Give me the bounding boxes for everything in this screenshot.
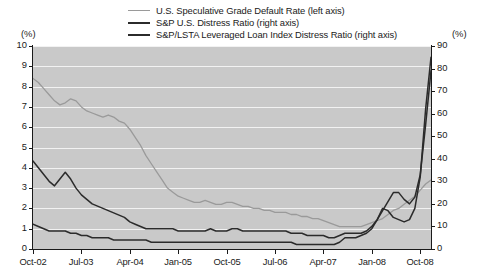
- series-line-2: [33, 57, 431, 244]
- y-axis-right-tick-label: 10: [437, 220, 459, 230]
- y-axis-right-tick-mark: [432, 136, 435, 137]
- y-axis-left-tick-mark: [29, 249, 32, 250]
- x-axis-tick-mark: [81, 250, 82, 254]
- x-axis-tick-mark: [33, 250, 34, 254]
- x-axis-tick-mark: [420, 250, 421, 254]
- left-axis-unit: (%): [21, 29, 36, 39]
- y-axis-right-tick-mark: [432, 181, 435, 182]
- y-axis-left-tick-label: 8: [5, 81, 27, 91]
- y-axis-right-tick-label: 80: [437, 63, 459, 73]
- y-axis-left-tick-mark: [29, 188, 32, 189]
- x-axis-tick-mark: [227, 250, 228, 254]
- x-axis-tick-mark: [323, 250, 324, 254]
- legend-label-default-rate: U.S. Speculative Grade Default Rate (lef…: [156, 5, 345, 16]
- chart-series-layer: [33, 46, 431, 249]
- y-axis-right-tick-mark: [432, 249, 435, 250]
- y-axis-right-tick-label: 70: [437, 85, 459, 95]
- right-axis-unit: (%): [452, 29, 467, 39]
- y-axis-right-tick-mark: [432, 69, 435, 70]
- y-axis-right-tick-label: 30: [437, 175, 459, 185]
- y-axis-left-tick-mark: [29, 148, 32, 149]
- y-axis-right-tick-label: 50: [437, 130, 459, 140]
- x-axis-tick-mark: [275, 250, 276, 254]
- y-axis-left-tick-label: 9: [5, 60, 27, 70]
- x-axis-tick-label: Oct-08: [390, 256, 450, 267]
- y-axis-left-tick-label: 3: [5, 182, 27, 192]
- y-axis-left-tick-label: 5: [5, 142, 27, 152]
- legend-item-sp-distress: S&P U.S. Distress Ratio (right axis): [128, 17, 397, 28]
- legend-label-lsta-distress: S&P/LSTA Leveraged Loan Index Distress R…: [156, 29, 397, 40]
- chart-figure: U.S. Speculative Grade Default Rate (lef…: [0, 0, 481, 277]
- y-axis-right-tick-label: 40: [437, 153, 459, 163]
- y-axis-right-tick-label: 60: [437, 108, 459, 118]
- legend-label-sp-distress: S&P U.S. Distress Ratio (right axis): [156, 17, 299, 28]
- legend-swatch-sp-distress: [128, 22, 150, 24]
- y-axis-left-tick-mark: [29, 127, 32, 128]
- y-axis-right: [431, 45, 432, 250]
- y-axis-right-tick-label: 20: [437, 198, 459, 208]
- y-axis-left-tick-mark: [29, 66, 32, 67]
- series-line-1: [33, 71, 431, 238]
- y-axis-left-tick-mark: [29, 46, 32, 47]
- y-axis-left-tick-label: 1: [5, 223, 27, 233]
- y-axis-left-tick-mark: [29, 107, 32, 108]
- y-axis-left-tick-label: 2: [5, 202, 27, 212]
- y-axis-left-tick-label: 10: [5, 40, 27, 50]
- y-axis-right-tick-mark: [432, 114, 435, 115]
- x-axis-tick-mark: [178, 250, 179, 254]
- y-axis-left-tick-mark: [29, 229, 32, 230]
- y-axis-left-tick-mark: [29, 208, 32, 209]
- legend-swatch-default-rate: [128, 10, 150, 11]
- y-axis-left-tick-label: 0: [5, 243, 27, 253]
- y-axis-right-tick-mark: [432, 46, 435, 47]
- y-axis-right-tick-mark: [432, 204, 435, 205]
- y-axis-left: [32, 45, 33, 250]
- y-axis-left-tick-mark: [29, 87, 32, 88]
- legend-item-lsta-distress: S&P/LSTA Leveraged Loan Index Distress R…: [128, 29, 397, 40]
- y-axis-right-tick-label: 90: [437, 40, 459, 50]
- y-axis-right-tick-mark: [432, 226, 435, 227]
- y-axis-left-tick-mark: [29, 168, 32, 169]
- chart-legend: U.S. Speculative Grade Default Rate (lef…: [128, 5, 397, 41]
- y-axis-right-tick-label: 0: [437, 243, 459, 253]
- y-axis-left-tick-label: 7: [5, 101, 27, 111]
- y-axis-right-tick-mark: [432, 159, 435, 160]
- legend-swatch-lsta-distress: [128, 34, 150, 36]
- y-axis-left-tick-label: 4: [5, 162, 27, 172]
- x-axis-tick-mark: [372, 250, 373, 254]
- x-axis-tick-mark: [130, 250, 131, 254]
- legend-item-default-rate: U.S. Speculative Grade Default Rate (lef…: [128, 5, 397, 16]
- y-axis-left-tick-label: 6: [5, 121, 27, 131]
- y-axis-right-tick-mark: [432, 91, 435, 92]
